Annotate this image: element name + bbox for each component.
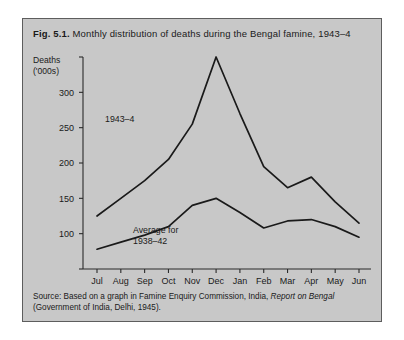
- x-tick-label-Feb: Feb: [256, 276, 272, 286]
- x-tick-label-Apr: Apr: [304, 276, 318, 286]
- x-tick-label-Jun: Jun: [352, 276, 367, 286]
- chart-plot-area: Deaths ('000s) 100150200250300 JulAugSep…: [23, 19, 383, 323]
- chart-series-lines: [97, 57, 359, 249]
- figure-source-note: Source: Based on a graph in Famine Enqui…: [33, 291, 373, 313]
- series-annotation-average-line1: Average for: [133, 225, 178, 235]
- source-prefix: Source: Based on a graph in Famine Enqui…: [33, 292, 271, 301]
- x-tick-label-Jul: Jul: [91, 276, 103, 286]
- y-axis-title-line2: ('000s): [33, 66, 59, 76]
- x-tick-label-Oct: Oct: [161, 276, 176, 286]
- source-suffix: (Government of India, Delhi, 1945).: [33, 303, 161, 312]
- x-tick-label-Dec: Dec: [208, 276, 225, 286]
- data-series-0: [97, 57, 359, 223]
- y-tick-label-250: 250: [59, 123, 74, 133]
- y-tick-label-200: 200: [59, 158, 74, 168]
- x-tick-label-May: May: [327, 276, 345, 286]
- series-annotation-average-line2: 1938–42: [133, 236, 167, 246]
- x-tick-label-Aug: Aug: [113, 276, 129, 286]
- y-tick-label-100: 100: [59, 229, 74, 239]
- source-italic-title: Report on Bengal: [271, 292, 335, 301]
- x-axis-ticks: JulAugSepOctNovDecJanFebMarAprMayJun: [91, 269, 366, 286]
- series-annotation-1943-4: 1943–4: [105, 114, 134, 124]
- x-tick-label-Jan: Jan: [233, 276, 248, 286]
- x-tick-label-Mar: Mar: [280, 276, 296, 286]
- x-tick-label-Sep: Sep: [137, 276, 153, 286]
- x-tick-label-Nov: Nov: [184, 276, 201, 286]
- y-tick-label-300: 300: [59, 88, 74, 98]
- y-tick-label-150: 150: [59, 194, 74, 204]
- y-axis-ticks: 100150200250300: [59, 57, 83, 269]
- y-axis-title-line1: Deaths: [33, 55, 60, 65]
- figure-panel: Fig. 5.1. Monthly distribution of deaths…: [22, 18, 382, 322]
